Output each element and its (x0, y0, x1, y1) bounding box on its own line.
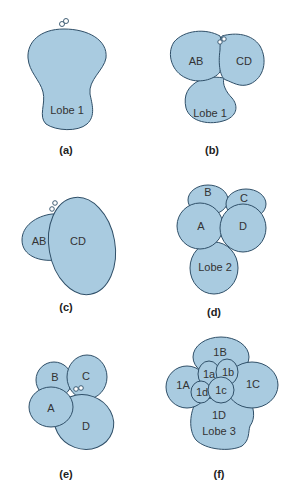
label-cd: CD (70, 235, 86, 247)
lobe-diagram: Lobe 1 (a) AB CD Lobe 1 (b) AB CD (c) B … (0, 0, 286, 487)
label-ab: AB (189, 55, 204, 67)
label-cd: CD (236, 55, 252, 67)
caption-d: (d) (207, 306, 221, 318)
caption-e: (e) (59, 468, 73, 480)
label-a: A (47, 402, 55, 414)
label-d: D (82, 420, 90, 432)
label-b: B (204, 186, 211, 198)
bubble-icon (53, 201, 58, 206)
panel-e: B C A D (e) (29, 355, 121, 480)
label-ab: AB (32, 235, 47, 247)
bubble-icon (222, 37, 226, 41)
label-b: B (51, 371, 58, 383)
bubble-icon (218, 40, 222, 44)
label-1c: 1C (246, 378, 260, 390)
caption-f: (f) (214, 468, 225, 480)
bubble-icon (79, 386, 84, 391)
label-1c-small: 1c (215, 384, 227, 396)
panel-d: B C A D Lobe 2 (d) (177, 185, 266, 318)
label-1a-small: 1a (203, 368, 216, 380)
caption-a: (a) (59, 144, 73, 156)
panel-b: AB CD Lobe 1 (b) (170, 31, 264, 156)
label-lobe-1: Lobe 1 (193, 107, 227, 119)
label-lobe-1: Lobe 1 (50, 104, 84, 116)
label-c: C (82, 370, 90, 382)
label-lobe-2: Lobe 2 (198, 261, 232, 273)
label-1b: 1B (213, 346, 226, 358)
bubble-icon (64, 19, 69, 24)
label-c: C (240, 192, 248, 204)
label-d: D (239, 220, 247, 232)
bubble-icon (50, 207, 55, 212)
panel-c: AB CD (c) (22, 192, 123, 313)
caption-b: (b) (205, 144, 219, 156)
label-1a: 1A (176, 379, 190, 391)
label-a: A (197, 220, 205, 232)
label-1d-small: 1d (196, 386, 208, 398)
caption-c: (c) (59, 301, 73, 313)
bubble-icon (74, 387, 79, 392)
label-1d: 1D (212, 409, 226, 421)
label-1b-small: 1b (222, 366, 234, 378)
panel-f: 1B 1a 1b 1A 1C 1d 1c 1D Lobe 3 (f) (166, 337, 278, 480)
label-lobe-3: Lobe 3 (202, 425, 236, 437)
panel-a: Lobe 1 (a) (28, 19, 106, 157)
